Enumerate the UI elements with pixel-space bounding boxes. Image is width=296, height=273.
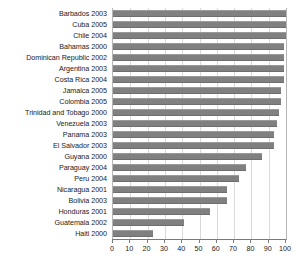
bar-series <box>113 8 286 239</box>
bar <box>113 32 286 39</box>
bar-row <box>113 8 286 19</box>
category-label: Paraguay 2004 <box>0 162 110 173</box>
bar-row <box>113 162 286 173</box>
bar <box>113 98 281 105</box>
bar-row <box>113 173 286 184</box>
bar <box>113 230 153 237</box>
category-label: Costa Rica 2004 <box>0 74 110 85</box>
x-axis-tick-marks <box>112 239 285 243</box>
category-label: Nicaragua 2001 <box>0 184 110 195</box>
category-label: Jamaica 2005 <box>0 85 110 96</box>
bar-row <box>113 107 286 118</box>
x-tick-label: 100 <box>273 244 296 254</box>
category-label: Bolivia 2003 <box>0 195 110 206</box>
bar-row <box>113 228 286 239</box>
bar <box>113 175 239 182</box>
bar <box>113 10 286 17</box>
bar <box>113 208 210 215</box>
category-label: Colombia 2005 <box>0 96 110 107</box>
category-label: Bahamas 2000 <box>0 41 110 52</box>
bar <box>113 153 262 160</box>
category-label: Barbados 2003 <box>0 8 110 19</box>
tick-mark <box>129 239 130 243</box>
bar-row <box>113 151 286 162</box>
category-label: Chile 2004 <box>0 30 110 41</box>
category-label: Dominican Republic 2002 <box>0 52 110 63</box>
category-axis-labels: Barbados 2003Cuba 2005Chile 2004Bahamas … <box>0 8 110 239</box>
plot-area <box>112 8 287 240</box>
tick-mark <box>216 239 217 243</box>
tick-mark <box>147 239 148 243</box>
bar-row <box>113 30 286 41</box>
category-label: Haiti 2000 <box>0 228 110 239</box>
tick-mark <box>233 239 234 243</box>
category-label: Panama 2003 <box>0 129 110 140</box>
bar <box>113 219 184 226</box>
category-label: Venezuela 2003 <box>0 118 110 129</box>
bar <box>113 131 274 138</box>
bar <box>113 87 281 94</box>
category-label: Honduras 2001 <box>0 206 110 217</box>
bar-chart: Barbados 2003Cuba 2005Chile 2004Bahamas … <box>0 0 296 273</box>
category-label: El Salvador 2003 <box>0 140 110 151</box>
category-label: Cuba 2005 <box>0 19 110 30</box>
bar <box>113 65 284 72</box>
bar <box>113 186 227 193</box>
bar-row <box>113 195 286 206</box>
tick-mark <box>250 239 251 243</box>
bar-row <box>113 19 286 30</box>
bar <box>113 43 284 50</box>
bar-row <box>113 74 286 85</box>
tick-mark <box>164 239 165 243</box>
category-label: Peru 2004 <box>0 173 110 184</box>
bar-row <box>113 118 286 129</box>
bar-row <box>113 206 286 217</box>
x-axis-tick-labels: 0102030405060708090100 <box>112 244 285 258</box>
bar-row <box>113 217 286 228</box>
tick-mark <box>268 239 269 243</box>
bar <box>113 109 279 116</box>
bar-row <box>113 52 286 63</box>
bar <box>113 120 277 127</box>
tick-mark <box>199 239 200 243</box>
bar-row <box>113 184 286 195</box>
bar <box>113 76 284 83</box>
bar <box>113 164 246 171</box>
category-label: Argentina 2003 <box>0 63 110 74</box>
bar-row <box>113 140 286 151</box>
bar-row <box>113 85 286 96</box>
bar <box>113 197 227 204</box>
bar-row <box>113 41 286 52</box>
tick-mark <box>181 239 182 243</box>
bar-row <box>113 96 286 107</box>
tick-mark <box>285 239 286 243</box>
category-label: Guyana 2000 <box>0 151 110 162</box>
bar <box>113 142 274 149</box>
bar-row <box>113 129 286 140</box>
bar <box>113 21 286 28</box>
tick-mark <box>112 239 113 243</box>
category-label: Trinidad and Tobago 2000 <box>0 107 110 118</box>
bar-row <box>113 63 286 74</box>
bar <box>113 54 284 61</box>
category-label: Guatemala 2002 <box>0 217 110 228</box>
